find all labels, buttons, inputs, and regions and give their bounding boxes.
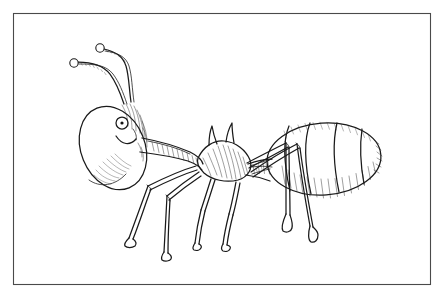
antenna-left-club-tip xyxy=(70,59,78,67)
ant-illustration-artboard xyxy=(0,0,447,298)
screenshot-root xyxy=(0,0,447,298)
eye-pupil xyxy=(120,121,123,124)
ant-drawing-svg xyxy=(0,0,447,298)
antenna-right-club-tip xyxy=(96,44,104,52)
